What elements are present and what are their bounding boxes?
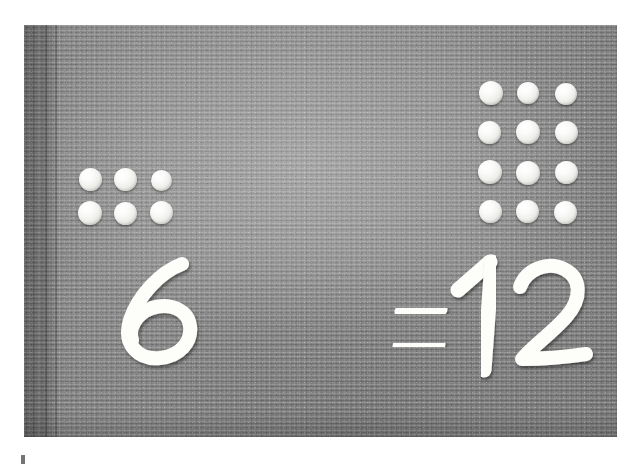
clay-ball [479, 200, 502, 223]
clay-ball [114, 202, 137, 225]
clay-ball [79, 168, 102, 191]
clay-ball [478, 160, 502, 184]
clay-ball [555, 83, 577, 105]
carpet-bottom-shading [24, 411, 617, 437]
clay-symbol-plus: + [211, 280, 295, 364]
clay-ball [555, 121, 578, 144]
photograph: 6 + = 1 [24, 25, 617, 437]
clay-ball [78, 201, 102, 225]
clay-numeral-six: 6 [108, 250, 208, 370]
clay-ball [479, 81, 503, 105]
clay-numeral-two: 2 [504, 255, 604, 380]
clay-ball [516, 161, 540, 185]
clay-ball [516, 200, 539, 223]
scan-edge-mark [21, 455, 25, 464]
clay-ball [150, 201, 173, 224]
clay-ball [554, 201, 577, 224]
clay-ball [478, 121, 501, 144]
clay-ball [516, 120, 540, 144]
carpet-seam-line [55, 25, 57, 437]
carpet-seam-line [33, 25, 35, 437]
clay-ball [517, 82, 539, 104]
carpet-left-seam [24, 25, 58, 437]
six-shape [108, 250, 208, 370]
clay-ball [114, 168, 137, 191]
two-shape [504, 255, 604, 380]
image-canvas: 6 + = 1 [0, 0, 633, 473]
clay-ball [555, 161, 578, 184]
carpet-seam-line [45, 25, 47, 437]
plus-shape [211, 280, 295, 364]
clay-ball [151, 170, 172, 191]
